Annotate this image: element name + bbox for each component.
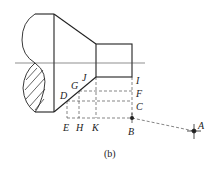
- technical-drawing: J G D I F C E H K B A (b): [0, 0, 220, 175]
- figure-caption: (b): [104, 148, 116, 160]
- label-c: C: [136, 101, 143, 112]
- label-j: J: [82, 72, 87, 83]
- label-e: E: [62, 122, 69, 133]
- label-a: A: [197, 120, 205, 131]
- label-i: I: [135, 75, 140, 86]
- label-g: G: [71, 80, 78, 91]
- section-hatching: [21, 63, 54, 112]
- label-b: B: [128, 126, 134, 137]
- label-h: H: [75, 122, 84, 133]
- hatch-lines: [25, 68, 45, 110]
- label-f: F: [135, 88, 143, 99]
- label-d: D: [59, 90, 68, 101]
- point-b-marker: [130, 113, 134, 123]
- section-outline: [23, 63, 35, 112]
- label-k: K: [91, 122, 100, 133]
